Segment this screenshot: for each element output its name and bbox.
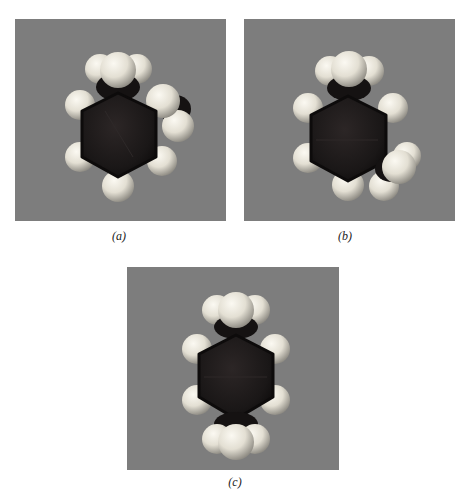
panel-a-ortho-xylene-image [15, 19, 226, 221]
panel-a-caption: (a) [99, 229, 139, 244]
panel-c-caption: (c) [215, 475, 255, 490]
panel-c-para-xylene-image [127, 267, 339, 470]
meta-xylene-model [244, 19, 455, 221]
panel-b-caption: (b) [325, 229, 365, 244]
para-xylene-model [127, 267, 339, 470]
panel-b-meta-xylene-image [244, 19, 455, 221]
ortho-xylene-model [15, 19, 226, 221]
